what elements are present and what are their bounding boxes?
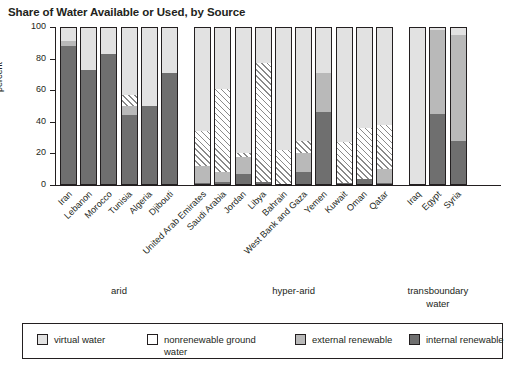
bar-outline [141, 27, 158, 185]
x-tick-label: Oman [345, 189, 369, 213]
bar-outline [356, 27, 373, 185]
bar-outline [60, 27, 77, 185]
bar-outline [235, 27, 252, 185]
bar [235, 27, 252, 185]
bar-outline [429, 27, 446, 185]
bar [450, 27, 467, 185]
bar [100, 27, 117, 185]
bar [161, 27, 178, 185]
bar-outline [376, 27, 393, 185]
legend-label: internal renewable [426, 334, 504, 345]
y-tick-label: 60 [18, 84, 46, 94]
group-label: hyper-arid [234, 285, 354, 296]
legend-label: nonrenewable ground [164, 334, 256, 345]
legend-label: external renewable [312, 334, 392, 345]
y-tick [50, 185, 55, 186]
x-tick-label: Qatar [367, 189, 390, 212]
x-axis-line [55, 185, 501, 186]
y-tick-label: 20 [18, 147, 46, 157]
bar-outline [214, 27, 231, 185]
bar-outline [100, 27, 117, 185]
bar [80, 27, 97, 185]
bar-outline [161, 27, 178, 185]
bar [214, 27, 231, 185]
bar [60, 27, 77, 185]
y-tick-label: 40 [18, 116, 46, 126]
bar [315, 27, 332, 185]
bar-outline [275, 27, 292, 185]
y-tick [50, 122, 55, 123]
x-tick-label: Syria [442, 189, 464, 211]
bar-outline [315, 27, 332, 185]
bar-outline [450, 27, 467, 185]
bar [194, 27, 211, 185]
bar [295, 27, 312, 185]
bar [336, 27, 353, 185]
y-tick-label: 80 [18, 53, 46, 63]
y-tick [50, 153, 55, 154]
bar [409, 27, 426, 185]
bar-outline [121, 27, 138, 185]
group-label: transboundary [378, 285, 498, 296]
bar [376, 27, 393, 185]
page-title: Share of Water Available or Used, by Sou… [8, 6, 245, 18]
bar-outline [336, 27, 353, 185]
legend-swatch [295, 334, 306, 345]
x-tick-label: Egypt [420, 189, 443, 212]
y-tick [50, 59, 55, 60]
group-label: arid [59, 285, 179, 296]
bar [275, 27, 292, 185]
bar-outline [295, 27, 312, 185]
y-tick-label: 0 [18, 179, 46, 189]
legend-swatch [409, 334, 420, 345]
bar-outline [80, 27, 97, 185]
legend-label-line2: water [164, 346, 187, 357]
y-tick [50, 90, 55, 91]
legend: virtual waternonrenewable groundwaterext… [22, 323, 503, 359]
bar [429, 27, 446, 185]
group-label-line2: water [378, 298, 498, 309]
legend-swatch [37, 334, 48, 345]
bar-outline [255, 27, 272, 185]
legend-label: virtual water [54, 334, 105, 345]
bar [356, 27, 373, 185]
y-axis-label: percent [0, 62, 4, 92]
legend-swatch [147, 334, 158, 345]
bar [121, 27, 138, 185]
plot-area [56, 27, 500, 185]
y-tick [50, 27, 55, 28]
bar [141, 27, 158, 185]
bar [255, 27, 272, 185]
bar-outline [409, 27, 426, 185]
bar-outline [194, 27, 211, 185]
y-tick-label: 100 [18, 21, 46, 31]
